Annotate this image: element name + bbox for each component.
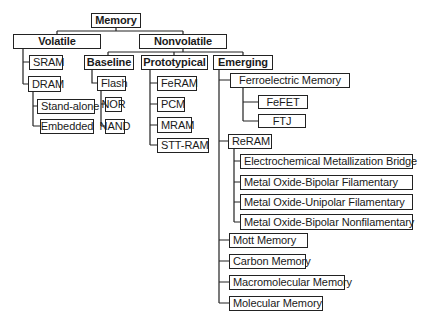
node-mott: Mott Memory (229, 233, 308, 248)
node-molecular: Molecular Memory (229, 296, 323, 311)
node-mo-bf: Metal Oxide-Bipolar Filamentary (240, 175, 413, 190)
node-stt-ram: STT-RAM (157, 138, 209, 153)
node-memory: Memory (91, 13, 141, 28)
node-nor: NOR (105, 97, 122, 112)
node-volatile: Volatile (13, 34, 101, 49)
node-emerging: Emerging (213, 55, 273, 70)
node-feram: FeRAM (157, 76, 197, 91)
node-mo-uf: Metal Oxide-Unipolar Filamentary (240, 194, 413, 210)
node-fefet: FeFET (258, 95, 308, 109)
node-embedded: Embedded (40, 119, 94, 134)
node-ecm: Electrochemical Metallization Bridge (240, 154, 413, 169)
node-mo-bnf: Metal Oxide-Bipolar Nonfilamentary (240, 214, 413, 230)
node-macromolecular: Macromolecular Memory (229, 275, 345, 290)
node-baseline: Baseline (84, 55, 134, 70)
node-carbon: Carbon Memory (229, 254, 306, 269)
node-ftj: FTJ (258, 114, 306, 128)
node-dram: DRAM (28, 76, 61, 92)
node-prototypical: Prototypical (141, 55, 208, 70)
node-stand-alone: Stand-alone (37, 99, 95, 114)
node-reram: ReRAM (228, 134, 272, 149)
node-nonvolatile: Nonvolatile (139, 34, 227, 49)
node-nand: NAND (105, 119, 125, 134)
node-flash: Flash (97, 76, 126, 91)
node-pcm: PCM (157, 97, 185, 112)
node-mram: MRAM (157, 117, 192, 133)
node-ferroelectric: Ferroelectric Memory (230, 73, 350, 88)
node-sram: SRAM (29, 55, 63, 70)
